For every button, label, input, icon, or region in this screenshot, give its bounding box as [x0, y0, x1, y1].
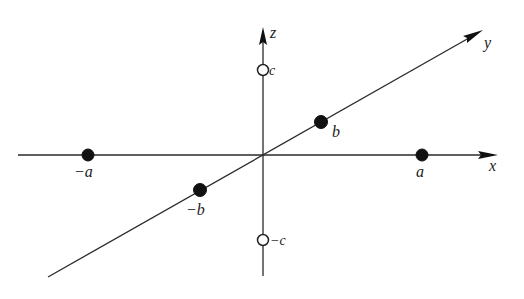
point-label-neg-a: −a — [74, 163, 93, 180]
filled-dot-icon — [194, 184, 207, 197]
point-neg-b: −b — [186, 184, 207, 219]
open-circle-icon — [258, 235, 269, 246]
point-pos-b: b — [315, 116, 341, 141]
coordinate-diagram: x z y −a a b −b c −c — [0, 0, 524, 299]
filled-dot-icon — [82, 149, 94, 161]
y-axis-label: y — [482, 34, 492, 52]
point-neg-a: −a — [74, 149, 94, 180]
open-circle-icon — [258, 65, 269, 76]
point-label-neg-c: −c — [270, 233, 286, 248]
point-label-pos-c: c — [269, 63, 276, 78]
x-axis-label: x — [488, 157, 496, 174]
filled-dot-icon — [416, 149, 428, 161]
point-pos-a: a — [416, 149, 428, 180]
point-label-neg-b: −b — [186, 201, 205, 218]
z-axis-label: z — [269, 24, 277, 41]
point-neg-c: −c — [258, 233, 287, 248]
y-axis-arrow-icon — [463, 30, 483, 43]
point-label-pos-a: a — [416, 163, 424, 180]
point-label-pos-b: b — [332, 123, 340, 140]
filled-dot-icon — [315, 116, 328, 129]
point-pos-c: c — [258, 63, 277, 78]
